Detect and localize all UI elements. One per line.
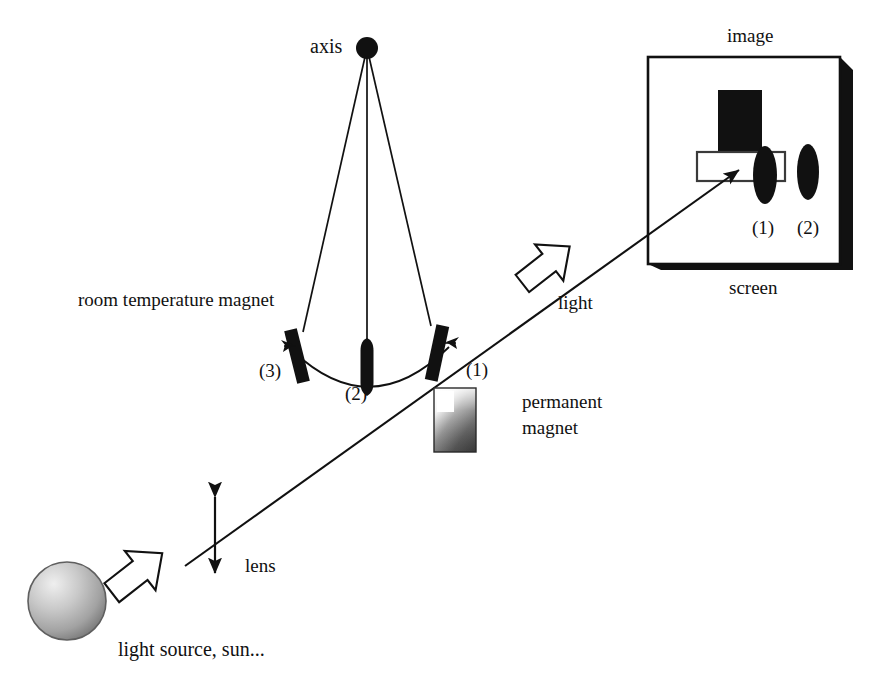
label-magnet-bar-3: (3) — [259, 361, 281, 380]
label-light: light — [558, 293, 593, 312]
label-magnet-bar-2: (2) — [345, 384, 367, 403]
block-arrow-light — [508, 228, 584, 301]
light-source-sphere — [28, 562, 106, 640]
label-room-temperature-magnet: room temperature magnet — [78, 290, 274, 309]
label-lens: lens — [245, 556, 276, 575]
block-arrow-light-shape — [508, 228, 584, 301]
magnet-bar-1-body — [425, 324, 449, 381]
figure-canvas: axis image screen room temperature magne… — [0, 0, 890, 690]
string-to-bar-1 — [367, 48, 431, 326]
screen-spot-2 — [797, 144, 819, 200]
screen-black-rectangle — [718, 90, 762, 151]
axis-pivot — [356, 37, 378, 59]
label-magnet-bar-1: (1) — [466, 360, 488, 379]
label-light-source: light source, sun... — [118, 639, 265, 659]
label-screen-spot-1: (1) — [752, 218, 774, 237]
block-arrow-source-shape — [96, 534, 177, 613]
screen-spot-1 — [753, 146, 777, 204]
schematic-svg — [0, 0, 890, 690]
pendulum-suspension — [303, 37, 431, 344]
label-image: image — [727, 26, 773, 45]
label-permanent-magnet-line1: permanent — [522, 392, 602, 411]
string-to-bar-3 — [303, 48, 367, 332]
block-arrow-source — [96, 534, 177, 613]
magnet-bar-1 — [425, 324, 449, 381]
label-axis: axis — [310, 36, 342, 56]
permanent-magnet-highlight — [437, 391, 454, 412]
label-screen: screen — [729, 278, 778, 297]
label-screen-spot-2: (2) — [797, 218, 819, 237]
label-permanent-magnet-line2: magnet — [522, 418, 578, 437]
magnet-bar-3-body — [284, 328, 310, 384]
magnet-bar-3 — [284, 328, 310, 384]
permanent-magnet — [434, 388, 476, 452]
